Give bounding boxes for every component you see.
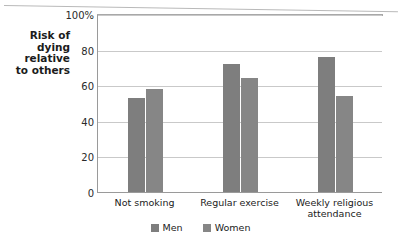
y-axis-tick-label: 0 xyxy=(54,188,94,199)
legend-label-women: Women xyxy=(215,222,251,233)
legend-label-men: Men xyxy=(163,222,183,233)
y-axis-tick-labels: 100%806040200 xyxy=(50,15,94,193)
legend-swatch-men-icon xyxy=(151,224,159,232)
bar-men-1 xyxy=(223,64,240,192)
bar-women-0 xyxy=(146,89,163,192)
x-axis-category-label: Regular exercise xyxy=(185,197,295,208)
x-axis-category-label: Weekly religious attendance xyxy=(280,197,390,219)
x-axis-category-label: Not smoking xyxy=(90,197,200,208)
y-axis-tick-label: 80 xyxy=(54,45,94,56)
bar-women-1 xyxy=(241,78,258,192)
legend-swatch-women-icon xyxy=(203,224,211,232)
plot-area xyxy=(97,15,382,193)
legend-item-women: Women xyxy=(203,222,251,233)
y-axis-tick-label: 20 xyxy=(54,152,94,163)
bar-women-2 xyxy=(336,96,353,192)
bar-men-2 xyxy=(318,57,335,192)
bar-men-0 xyxy=(128,98,145,192)
chart-figure: Risk of dying relative to others 100%806… xyxy=(0,0,401,240)
chart-legend: Men Women xyxy=(0,222,401,233)
y-axis-tick-label: 40 xyxy=(54,116,94,127)
legend-item-men: Men xyxy=(151,222,183,233)
y-axis-tick-label: 100% xyxy=(54,10,94,21)
y-axis-tick-label: 60 xyxy=(54,81,94,92)
bars-layer xyxy=(98,15,382,192)
